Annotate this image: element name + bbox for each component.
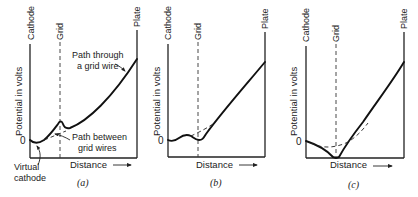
zero-label: 0 [296, 136, 302, 147]
zero-label: 0 [158, 135, 164, 146]
cathode-label: Cathode [301, 8, 311, 42]
annotation-through-wire-1: Path through [72, 50, 124, 60]
y-axis-label: Potential in volts [151, 67, 162, 136]
caption-c: (c) [348, 179, 360, 191]
cathode-label: Cathode [163, 6, 173, 40]
grid-label: Grid [331, 25, 341, 42]
panel-a: Cathode Grid Plate Potential in volts 0 … [13, 6, 142, 189]
cathode-label: Cathode [26, 6, 36, 40]
plate-label: Plate [132, 6, 142, 27]
path-through-grid-wire [306, 62, 404, 158]
annotation-between-wires-2: grid wires [78, 143, 117, 153]
x-axis-label: Distance [330, 159, 367, 170]
plate-label: Plate [399, 8, 409, 29]
y-axis-label: Potential in volts [13, 67, 24, 136]
x-axis-label: Distance [196, 159, 233, 170]
path-through-grid-wire [168, 62, 265, 141]
grid-label: Grid [193, 23, 203, 40]
zero-label: 0 [20, 135, 26, 146]
x-axis-label: Distance [70, 159, 107, 170]
grid-label: Grid [55, 23, 65, 40]
potential-distribution-diagram: Cathode Grid Plate Potential in volts 0 … [0, 0, 418, 197]
path-between-grid-wires [44, 131, 66, 140]
annotation-through-wire-2: a grid wire [77, 61, 119, 71]
panel-c: Cathode Grid Plate Potential in volts 0 … [288, 8, 409, 191]
caption-b: (b) [210, 177, 222, 189]
path-through-grid-wire [30, 59, 137, 143]
leader-between-wires [55, 134, 70, 140]
annotation-virtual-cathode-1: Virtual [14, 162, 39, 172]
panel-b: Cathode Grid Plate Potential in volts 0 … [151, 6, 270, 189]
annotation-between-wires-1: Path between [72, 132, 127, 142]
plate-label: Plate [260, 8, 270, 29]
caption-a: (a) [77, 177, 89, 189]
annotation-virtual-cathode-2: cathode [14, 173, 46, 183]
y-axis-label: Potential in volts [288, 67, 299, 136]
